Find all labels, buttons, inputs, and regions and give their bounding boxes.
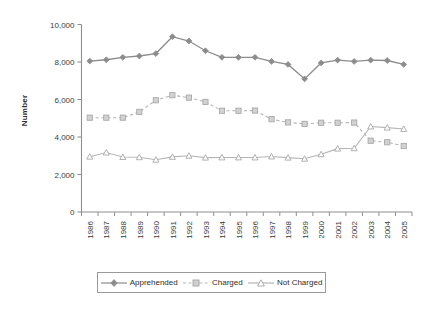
legend-label-apprehended: Apprehended	[130, 278, 178, 288]
data-point-marker	[219, 54, 225, 60]
x-tick-label: 2000	[317, 220, 326, 238]
data-point-marker	[170, 93, 175, 98]
data-point-marker	[335, 120, 340, 125]
series-line	[90, 127, 404, 160]
series-apprehended	[87, 34, 407, 82]
data-point-marker	[186, 38, 192, 44]
x-tick-label: 1996	[251, 220, 260, 238]
x-tick-label: 1989	[136, 220, 145, 238]
series-line	[90, 37, 404, 79]
x-tick-label: 1999	[301, 220, 310, 238]
data-point-marker	[87, 115, 92, 120]
data-point-marker	[269, 117, 274, 122]
data-point-marker	[103, 57, 109, 63]
legend-item-apprehended[interactable]: Apprehended	[101, 278, 178, 288]
data-point-marker	[186, 95, 191, 100]
y-tick-label: 0	[70, 208, 75, 217]
data-point-marker	[352, 120, 357, 125]
x-tick-label: 1992	[185, 220, 194, 238]
data-point-marker	[103, 150, 109, 155]
x-tick-label: 1990	[152, 220, 161, 238]
legend-marker-square-icon	[183, 278, 209, 288]
data-point-marker	[285, 120, 290, 125]
x-tick-label: 1986	[86, 220, 95, 238]
axis-group: 02,0004,0006,0008,00010,0001986198719881…	[50, 21, 412, 239]
line-chart: 02,0004,0006,0008,00010,0001986198719881…	[0, 0, 423, 315]
x-tick-label: 1991	[169, 220, 178, 238]
data-point-marker	[368, 57, 374, 63]
data-point-marker	[120, 115, 125, 120]
series-not-charged	[87, 124, 407, 163]
x-tick-label: 2001	[334, 220, 343, 238]
data-point-marker	[252, 54, 258, 60]
chart-legend: Apprehended Charged Not Charged	[97, 272, 326, 293]
y-tick-label: 2,000	[54, 171, 75, 180]
data-point-marker	[319, 120, 324, 125]
x-tick-label: 2002	[350, 220, 359, 238]
data-point-marker	[137, 109, 142, 114]
y-axis-title: Number	[20, 71, 29, 151]
data-point-marker	[236, 54, 242, 60]
data-point-marker	[236, 108, 241, 113]
series-charged	[87, 93, 406, 149]
data-point-marker	[351, 59, 357, 65]
y-tick-label: 8,000	[54, 58, 75, 67]
x-tick-label: 2003	[367, 220, 376, 238]
x-tick-label: 1995	[235, 220, 244, 238]
data-point-marker	[252, 108, 257, 113]
data-point-marker	[136, 53, 142, 59]
x-tick-label: 1998	[284, 220, 293, 238]
x-tick-label: 1994	[218, 220, 227, 238]
data-point-marker	[269, 59, 275, 65]
data-point-marker	[302, 121, 307, 126]
data-point-marker	[203, 48, 209, 54]
x-tick-label: 1997	[268, 220, 277, 238]
y-tick-label: 6,000	[54, 96, 75, 105]
data-point-marker	[384, 58, 390, 64]
legend-item-charged[interactable]: Charged	[183, 278, 243, 288]
data-point-marker	[385, 140, 390, 145]
data-point-marker	[120, 54, 126, 60]
y-tick-label: 10,000	[50, 21, 75, 30]
legend-label-charged: Charged	[212, 278, 243, 288]
chart-figure: 02,0004,0006,0008,00010,0001986198719881…	[0, 0, 423, 315]
x-tick-label: 1987	[102, 220, 111, 238]
data-point-marker	[401, 62, 407, 68]
legend-marker-diamond-icon	[101, 278, 127, 288]
data-point-marker	[203, 99, 208, 104]
x-tick-label: 1993	[202, 220, 211, 238]
data-point-marker	[335, 57, 341, 63]
x-tick-label: 2004	[383, 220, 392, 238]
data-point-marker	[219, 108, 224, 113]
legend-label-not-charged: Not Charged	[277, 278, 322, 288]
y-tick-label: 4,000	[54, 133, 75, 142]
plot-area: 02,0004,0006,0008,00010,0001986198719881…	[0, 0, 423, 315]
legend-item-not-charged[interactable]: Not Charged	[248, 278, 322, 288]
data-point-marker	[368, 138, 373, 143]
x-tick-label: 1988	[119, 220, 128, 238]
data-point-marker	[153, 98, 158, 103]
x-tick-label: 2005	[400, 220, 409, 238]
legend-marker-triangle-icon	[248, 278, 274, 288]
data-point-marker	[87, 58, 93, 64]
data-point-marker	[104, 115, 109, 120]
data-point-marker	[401, 143, 406, 148]
